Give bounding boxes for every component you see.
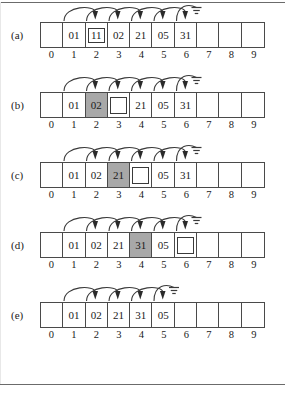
array-cell-7[interactable]: [197, 163, 219, 187]
array-cell-1[interactable]: 01: [63, 233, 85, 257]
array-cell-6[interactable]: 31: [175, 163, 197, 187]
cell-value: 01: [68, 240, 79, 251]
cell-value: 31: [180, 100, 191, 111]
array-cell-5[interactable]: 05: [152, 233, 174, 257]
cell-value: 01: [68, 100, 79, 111]
array-cell-1[interactable]: 01: [63, 163, 85, 187]
array-cell-2[interactable]: 02: [86, 233, 108, 257]
index-label-4: 4: [130, 330, 153, 341]
panel-a: (a)0111022105310123456789: [0, 0, 285, 70]
index-label-6: 6: [175, 330, 198, 341]
array-row: 0102213105: [40, 302, 265, 328]
panel-label: (c): [11, 170, 23, 181]
array-row: 011102210531: [40, 22, 265, 48]
array-cell-1[interactable]: 01: [63, 93, 85, 117]
index-label-6: 6: [175, 50, 198, 61]
array-cell-2[interactable]: 11: [86, 23, 108, 47]
array-cell-3[interactable]: 02: [108, 23, 130, 47]
array-cell-4[interactable]: 31: [130, 303, 152, 327]
index-label-1: 1: [63, 330, 86, 341]
array-cell-2[interactable]: 02: [86, 163, 108, 187]
array-cell-6[interactable]: 31: [175, 23, 197, 47]
index-label-0: 0: [40, 190, 63, 201]
index-label-row: 0123456789: [40, 190, 265, 201]
array-cell-6[interactable]: [175, 233, 197, 257]
index-label-3: 3: [108, 120, 131, 131]
array-row: 0102210531: [40, 162, 265, 188]
array-cell-8[interactable]: [219, 163, 241, 187]
array-cell-8[interactable]: [219, 93, 241, 117]
array-cell-7[interactable]: [197, 303, 219, 327]
array-cell-1[interactable]: 01: [63, 303, 85, 327]
array-cell-9[interactable]: [242, 23, 264, 47]
array-cell-9[interactable]: [242, 233, 264, 257]
panel-b: (b)01022105310123456789: [0, 70, 285, 140]
array-cell-6[interactable]: 31: [175, 93, 197, 117]
array-cell-0[interactable]: [41, 93, 63, 117]
index-label-5: 5: [153, 330, 176, 341]
index-label-2: 2: [85, 260, 108, 271]
array-cell-2[interactable]: 02: [86, 303, 108, 327]
index-label-8: 8: [220, 120, 243, 131]
cell-value: 21: [135, 30, 146, 41]
array-cell-9[interactable]: [242, 163, 264, 187]
index-label-row: 0123456789: [40, 50, 265, 61]
array-cell-3[interactable]: 21: [108, 233, 130, 257]
array-cell-3[interactable]: 21: [108, 163, 130, 187]
cell-value: 02: [91, 170, 102, 181]
array-cell-4[interactable]: 21: [130, 93, 152, 117]
index-label-7: 7: [198, 190, 221, 201]
empty-slot-marker: [132, 167, 149, 184]
array-cell-5[interactable]: 05: [152, 23, 174, 47]
array-cell-9[interactable]: [242, 303, 264, 327]
array-cell-5[interactable]: 05: [152, 303, 174, 327]
array-cell-5[interactable]: 05: [152, 93, 174, 117]
index-label-3: 3: [108, 260, 131, 271]
array-cell-8[interactable]: [219, 233, 241, 257]
cell-value: 02: [91, 100, 102, 111]
array-cell-7[interactable]: [197, 233, 219, 257]
array-cell-7[interactable]: [197, 23, 219, 47]
array-cell-3[interactable]: 21: [108, 303, 130, 327]
index-label-1: 1: [63, 50, 86, 61]
array-cell-4[interactable]: 21: [130, 23, 152, 47]
index-label-2: 2: [85, 120, 108, 131]
figure-canvas: (a)0111022105310123456789(b)010221053101…: [0, 0, 285, 396]
index-label-1: 1: [63, 120, 86, 131]
index-label-4: 4: [130, 260, 153, 271]
cell-value: 21: [135, 100, 146, 111]
array-cell-8[interactable]: [219, 23, 241, 47]
index-label-0: 0: [40, 120, 63, 131]
index-label-1: 1: [63, 260, 86, 271]
array-cell-0[interactable]: [41, 233, 63, 257]
cell-value: 31: [180, 30, 191, 41]
index-label-6: 6: [175, 190, 198, 201]
index-label-5: 5: [153, 50, 176, 61]
array-cell-2[interactable]: 02: [86, 93, 108, 117]
array-cell-0[interactable]: [41, 163, 63, 187]
array-cell-3[interactable]: [108, 93, 130, 117]
array-cell-7[interactable]: [197, 93, 219, 117]
index-label-3: 3: [108, 190, 131, 201]
array-cell-5[interactable]: 05: [152, 163, 174, 187]
array-cell-1[interactable]: 01: [63, 23, 85, 47]
panel-e: (e)01022131050123456789: [0, 280, 285, 350]
cell-value: 05: [158, 30, 169, 41]
panel-label: (d): [11, 240, 24, 251]
array-cell-8[interactable]: [219, 303, 241, 327]
index-label-4: 4: [130, 190, 153, 201]
panel-d: (d)01022131050123456789: [0, 210, 285, 280]
array-row: 0102213105: [40, 232, 265, 258]
array-cell-0[interactable]: [41, 303, 63, 327]
index-label-row: 0123456789: [40, 120, 265, 131]
panel-label: (a): [11, 30, 23, 41]
index-label-6: 6: [175, 260, 198, 271]
empty-slot-marker: [177, 237, 194, 254]
array-cell-9[interactable]: [242, 93, 264, 117]
array-cell-6[interactable]: [175, 303, 197, 327]
array-cell-0[interactable]: [41, 23, 63, 47]
array-cell-4[interactable]: [130, 163, 152, 187]
array-cell-4[interactable]: 31: [130, 233, 152, 257]
cell-value: 05: [158, 240, 169, 251]
index-label-3: 3: [108, 50, 131, 61]
